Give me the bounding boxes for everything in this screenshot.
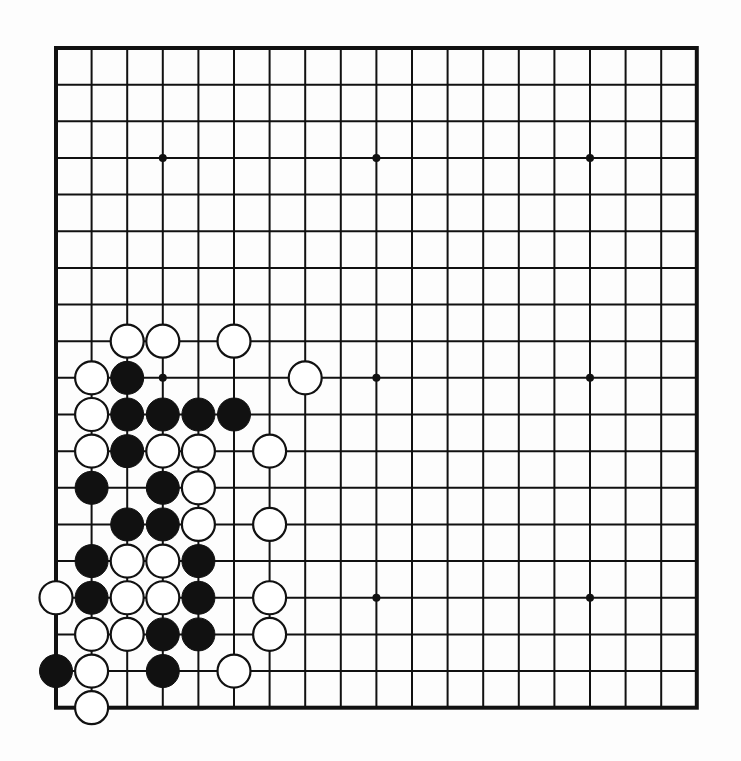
star-point-icon (372, 594, 380, 602)
black-stone (75, 581, 108, 614)
white-stone (75, 655, 108, 688)
white-stone (111, 325, 144, 358)
white-stone (182, 508, 215, 541)
white-stone (146, 545, 179, 578)
star-point-icon (586, 374, 594, 382)
black-stone (182, 581, 215, 614)
black-stone (146, 471, 179, 504)
star-point-icon (159, 374, 167, 382)
black-stone (40, 655, 73, 688)
white-stone (253, 581, 286, 614)
black-stone (111, 435, 144, 468)
black-stone (146, 508, 179, 541)
white-stone (182, 471, 215, 504)
white-stone (75, 435, 108, 468)
star-point-icon (586, 594, 594, 602)
white-stone (182, 435, 215, 468)
white-stone (40, 581, 73, 614)
black-stone (75, 471, 108, 504)
white-stone (75, 398, 108, 431)
white-stone (111, 618, 144, 651)
star-point-icon (159, 154, 167, 162)
white-stone (146, 581, 179, 614)
star-point-icon (372, 154, 380, 162)
go-board (0, 0, 741, 761)
black-stone (111, 508, 144, 541)
white-stone (253, 435, 286, 468)
white-stone (75, 691, 108, 724)
black-stone (146, 655, 179, 688)
white-stone (253, 508, 286, 541)
go-diagram-page (0, 0, 741, 761)
black-stone (111, 398, 144, 431)
white-stone (218, 655, 251, 688)
black-stone (218, 398, 251, 431)
white-stone (289, 361, 322, 394)
black-stone (182, 618, 215, 651)
white-stone (75, 618, 108, 651)
white-stone (111, 581, 144, 614)
white-stone (253, 618, 286, 651)
white-stone (146, 325, 179, 358)
white-stone (111, 545, 144, 578)
white-stone (218, 325, 251, 358)
black-stone (75, 545, 108, 578)
black-stone (146, 398, 179, 431)
black-stone (182, 398, 215, 431)
black-stone (111, 361, 144, 394)
white-stone (146, 435, 179, 468)
white-stone (75, 361, 108, 394)
black-stone (146, 618, 179, 651)
star-point-icon (372, 374, 380, 382)
star-point-icon (586, 154, 594, 162)
black-stone (182, 545, 215, 578)
